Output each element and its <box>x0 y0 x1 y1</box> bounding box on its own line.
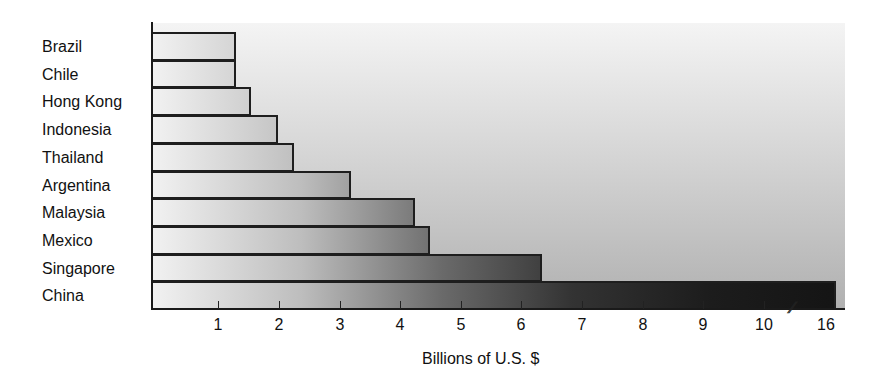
x-tick-mark <box>400 301 402 309</box>
category-label: China <box>42 286 84 306</box>
y-axis-line <box>151 22 153 310</box>
x-tick-mark <box>764 301 766 309</box>
bar-china <box>152 281 836 310</box>
x-tick-label: 10 <box>755 315 773 335</box>
category-label: Malaysia <box>42 203 105 223</box>
x-tick-label: 1 <box>214 315 223 335</box>
x-tick-mark <box>703 301 705 309</box>
x-tick-label: 16 <box>817 315 835 335</box>
bar-chile <box>152 60 236 88</box>
x-tick-label: 2 <box>275 315 284 335</box>
x-axis-title: Billions of U.S. $ <box>422 349 539 369</box>
x-tick-label: 8 <box>639 315 648 335</box>
bar-malaysia <box>152 198 415 227</box>
bar-thailand <box>152 143 294 172</box>
x-tick-label: 4 <box>396 315 405 335</box>
x-tick-mark <box>340 301 342 309</box>
bar-brazil <box>152 32 236 61</box>
x-tick-label: 5 <box>457 315 466 335</box>
bar-hong-kong <box>152 87 251 116</box>
x-tick-label: 7 <box>578 315 587 335</box>
bar-indonesia <box>152 115 278 144</box>
category-label: Indonesia <box>42 120 111 140</box>
horizontal-bar-chart: BrazilChileHong KongIndonesiaThailandArg… <box>0 0 884 386</box>
bar-mexico <box>152 226 430 255</box>
x-tick-mark <box>218 301 220 309</box>
x-tick-label: 6 <box>517 315 526 335</box>
category-label: Singapore <box>42 259 115 279</box>
bar-argentina <box>152 171 351 199</box>
x-tick-mark <box>279 301 281 309</box>
x-tick-mark <box>521 301 523 309</box>
category-label: Argentina <box>42 176 111 196</box>
category-label: Thailand <box>42 148 103 168</box>
x-tick-label: 9 <box>699 315 708 335</box>
x-tick-mark <box>461 301 463 309</box>
x-tick-label: 3 <box>336 315 345 335</box>
x-axis-line <box>151 308 845 310</box>
category-label: Chile <box>42 65 78 85</box>
x-tick-mark <box>643 301 645 309</box>
bar-singapore <box>152 254 542 282</box>
x-tick-mark <box>582 301 584 309</box>
category-label: Brazil <box>42 37 82 57</box>
category-label: Hong Kong <box>42 92 122 112</box>
category-label: Mexico <box>42 231 93 251</box>
